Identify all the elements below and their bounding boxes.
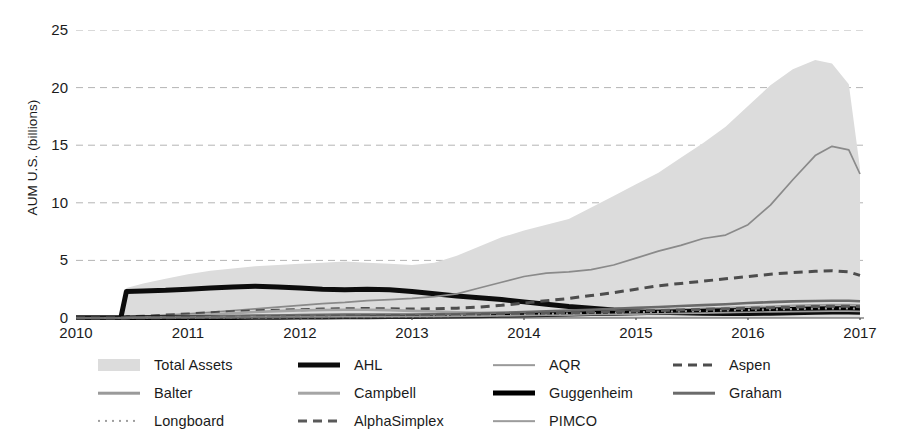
series-canvas [76, 30, 860, 318]
x-tick-2017: 2017 [843, 324, 876, 341]
x-tick-2015: 2015 [619, 324, 652, 341]
x-tick-2014: 2014 [507, 324, 540, 341]
swatch-line [298, 363, 340, 368]
y-axis-tick-labels: 0510152025 [16, 0, 68, 348]
x-tick-2010: 2010 [59, 324, 92, 341]
legend-item-balter[interactable]: Balter [98, 380, 192, 406]
legend-row-1: BalterCampbellGuggenheimGraham [98, 380, 888, 406]
legend-item-pimco[interactable]: PIMCO [493, 408, 597, 434]
swatch-line [493, 420, 535, 422]
legend-row-2: LongboardAlphaSimplexPIMCO [98, 408, 888, 434]
legend-label: Total Assets [154, 357, 233, 373]
legend-item-ahl[interactable]: AHL [298, 352, 383, 378]
y-tick-25: 25 [22, 22, 68, 37]
legend-item-campbell[interactable]: Campbell [298, 380, 416, 406]
legend-item-alphasimplex[interactable]: AlphaSimplex [298, 408, 444, 434]
legend-item-aqr[interactable]: AQR [493, 352, 581, 378]
legend-label: Longboard [154, 413, 224, 429]
y-tick-15: 15 [22, 137, 68, 152]
legend-swatch-guggenheim-icon [493, 386, 535, 400]
swatch-line [98, 392, 140, 395]
legend-item-longboard[interactable]: Longboard [98, 408, 224, 434]
swatch-line [673, 392, 715, 395]
chart-figure-root: AUM U.S. (billions) 0510152025 201020112… [0, 0, 900, 443]
swatch-line [298, 392, 340, 395]
chart-plot-area: AUM U.S. (billions) 0510152025 201020112… [0, 0, 900, 348]
legend-label: AQR [549, 357, 581, 373]
legend-label: Guggenheim [549, 385, 633, 401]
legend-label: Graham [729, 385, 782, 401]
y-tick-5: 5 [22, 252, 68, 267]
legend-item-aspen[interactable]: Aspen [673, 352, 771, 378]
legend-swatch-total-assets-icon [98, 358, 140, 372]
swatch-line [98, 420, 140, 422]
legend-item-guggenheim[interactable]: Guggenheim [493, 380, 633, 406]
legend-label: Campbell [354, 385, 416, 401]
swatch-line [493, 364, 535, 366]
x-tick-2012: 2012 [283, 324, 316, 341]
swatch-line [673, 364, 715, 367]
legend-row-0: Total AssetsAHLAQRAspen [98, 352, 888, 378]
legend-swatch-balter-icon [98, 386, 140, 400]
legend-swatch-longboard-icon [98, 414, 140, 428]
legend-swatch-ahl-icon [298, 358, 340, 372]
legend-label: Balter [154, 385, 192, 401]
legend-label: PIMCO [549, 413, 597, 429]
y-tick-20: 20 [22, 80, 68, 95]
series-svg [76, 30, 866, 320]
legend-label: AlphaSimplex [354, 413, 444, 429]
swatch-line [493, 391, 535, 396]
area-total-assets [76, 60, 860, 318]
legend-swatch-pimco-icon [493, 414, 535, 428]
legend-item-graham[interactable]: Graham [673, 380, 782, 406]
legend-swatch-graham-icon [673, 386, 715, 400]
legend-swatch-alphasimplex-icon [298, 414, 340, 428]
x-tick-2011: 2011 [172, 324, 204, 341]
legend-item-total-assets[interactable]: Total Assets [98, 352, 233, 378]
x-tick-2013: 2013 [395, 324, 428, 341]
swatch-line [298, 420, 340, 423]
swatch-patch [98, 359, 140, 371]
chart-legend: Total AssetsAHLAQRAspenBalterCampbellGug… [0, 352, 900, 443]
legend-label: Aspen [729, 357, 771, 373]
legend-swatch-campbell-icon [298, 386, 340, 400]
legend-swatch-aspen-icon [673, 358, 715, 372]
y-tick-10: 10 [22, 195, 68, 210]
x-tick-2016: 2016 [731, 324, 764, 341]
x-axis-tick-labels: 20102011201220132014201520162017 [0, 320, 900, 348]
legend-label: AHL [354, 357, 383, 373]
legend-swatch-aqr-icon [493, 358, 535, 372]
